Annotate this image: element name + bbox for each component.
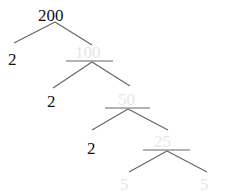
edge-100-2 <box>53 62 92 88</box>
node-50: 50 <box>118 91 135 108</box>
node-100: 100 <box>75 44 101 61</box>
node-2-level1: 2 <box>8 51 17 68</box>
edge-200-2 <box>14 22 55 43</box>
edge-50-2 <box>92 109 128 130</box>
edge-25-5a <box>129 151 167 172</box>
node-200: 200 <box>38 7 64 24</box>
edge-200-100 <box>55 22 92 45</box>
node-2-level2: 2 <box>47 93 56 110</box>
node-5-right: 5 <box>200 176 209 192</box>
node-2-level3: 2 <box>87 140 96 157</box>
edge-50-25 <box>128 109 168 130</box>
node-5-left: 5 <box>120 176 129 192</box>
edge-100-50 <box>92 62 130 86</box>
edge-25-5b <box>167 151 207 172</box>
node-25: 25 <box>154 133 171 150</box>
